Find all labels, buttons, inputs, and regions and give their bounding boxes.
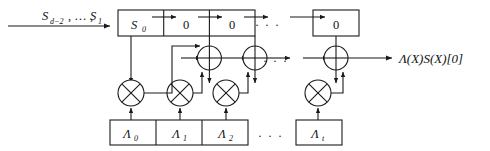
coef-cell-2-sub: 2 <box>229 134 233 143</box>
coef-cell-0-sub: 0 <box>134 134 138 143</box>
input-label-sub1: d−2 <box>50 17 63 26</box>
coef-cell-1-sub: 1 <box>183 134 187 143</box>
input-label-sub2: 1 <box>98 17 102 26</box>
coefficient-feed-wires <box>131 108 318 120</box>
xor-feed-wires <box>209 36 336 46</box>
diagram-canvas: S d−2 , … , S 1 S 0 0 0 0 . . . . . . Λ(… <box>0 0 490 151</box>
coef-cell-1-value: Λ <box>171 127 180 141</box>
coefficient-register-tail-box <box>296 120 342 145</box>
input-label-s1: S <box>42 9 49 23</box>
coef-cell-2-value: Λ <box>217 127 226 141</box>
xor-gate-1 <box>197 46 221 70</box>
shift-cell-0-value: S <box>131 18 138 32</box>
shift-register-ellipsis: . . . <box>256 15 281 29</box>
register-tap-wires <box>131 36 336 83</box>
mult-gate-2 <box>213 80 239 106</box>
mult-gate-0 <box>118 80 144 106</box>
shift-cell-tail-value: 0 <box>333 18 339 32</box>
xor-chain-ellipsis: . . . <box>264 51 289 65</box>
mult-gate-t <box>305 80 331 106</box>
figure-root: S d−2 , … , S 1 S 0 0 0 0 . . . . . . Λ(… <box>0 0 490 151</box>
output-label: Λ(X)S(X)[0] <box>397 51 463 66</box>
coefficient-register-ellipsis: . . . <box>259 126 284 140</box>
input-label-s2: S <box>90 9 97 23</box>
shift-cell-1-value: 0 <box>183 18 189 32</box>
coef-cell-t-value: Λ <box>310 127 319 141</box>
coef-cell-0-value: Λ <box>122 127 131 141</box>
input-label: S d−2 , … , S 1 <box>42 9 102 26</box>
shift-cell-0-sub: 0 <box>142 25 146 34</box>
xor-gate-3 <box>324 46 348 70</box>
shift-cell-2-value: 0 <box>229 18 235 32</box>
shift-register-tail-box <box>290 10 359 36</box>
